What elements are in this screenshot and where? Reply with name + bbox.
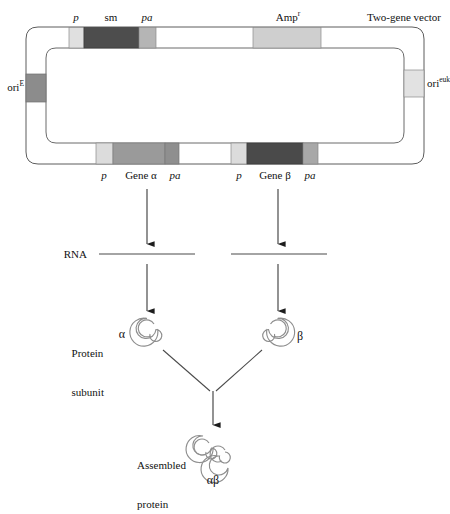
label-ori-euk-text: ori (427, 77, 439, 89)
protein-coil-beta (263, 318, 295, 346)
segment-gene-alpha (113, 143, 165, 164)
label-p-alpha: p (101, 169, 107, 181)
label-sm: sm (105, 11, 118, 23)
plasmid-inner-ring (46, 48, 404, 143)
label-pa-sm: pa (142, 11, 153, 23)
protein-coil-alpha (130, 318, 162, 346)
segment-sm (84, 28, 139, 49)
label-assembled-protein-line1: Assembled (137, 459, 186, 472)
label-subunit-alpha: α (119, 328, 125, 340)
label-ori-euk: orieuk (427, 77, 450, 89)
label-protein-subunit-line2: subunit (72, 386, 104, 399)
segment-gene-beta (247, 143, 303, 164)
segment-pa-beta (303, 143, 318, 164)
segment-pa-alpha (165, 143, 179, 164)
label-assembled-protein: Assembled protein (137, 433, 186, 514)
label-ori-ecoli-text: ori (7, 81, 19, 93)
label-ori-euk-superscript: euk (439, 75, 450, 84)
label-assembled-protein-line2: protein (137, 498, 186, 511)
segment-ampr (253, 28, 321, 49)
segment-p-alpha (96, 143, 113, 164)
label-p-beta: p (236, 169, 242, 181)
arrow-assembly-from-alpha (163, 350, 210, 391)
label-gene-alpha: Gene α (125, 169, 157, 181)
label-ori-ecoli-superscript: E (19, 79, 24, 88)
segment-ori-ecoli (26, 74, 46, 102)
label-ampr-superscript: r (298, 9, 301, 18)
segment-p-sm (69, 28, 84, 49)
segment-ori-euk (404, 70, 424, 97)
label-ampr: Ampr (276, 11, 301, 23)
arrow-assembly-from-beta (216, 350, 262, 391)
segment-pa-sm (139, 28, 156, 49)
label-pa-beta: pa (305, 169, 316, 181)
label-ori-ecoli: oriE (7, 81, 24, 93)
label-subunit-beta: β (297, 330, 303, 342)
label-two-gene-vector: Two-gene vector (367, 11, 441, 23)
label-p-sm: p (73, 11, 79, 23)
label-alpha-beta-complex: αβ (207, 474, 219, 486)
label-gene-beta: Gene β (259, 169, 291, 181)
label-protein-subunit-line1: Protein (72, 347, 104, 360)
segment-p-beta (231, 143, 247, 164)
label-ampr-text: Amp (276, 11, 298, 23)
label-pa-alpha: pa (170, 169, 181, 181)
label-protein-subunit: Protein subunit (72, 321, 104, 425)
label-rna: RNA (64, 248, 87, 260)
